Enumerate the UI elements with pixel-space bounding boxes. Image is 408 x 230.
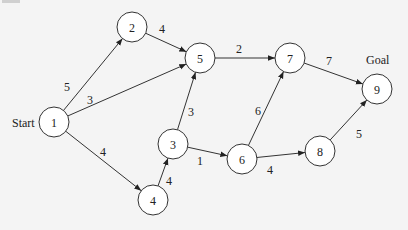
edge-3-to-6: 1 [188, 147, 228, 168]
node-label: 7 [287, 52, 293, 66]
node-label: 8 [317, 145, 323, 159]
node-label: 2 [129, 21, 135, 35]
edge-2-to-5: 4 [146, 22, 187, 52]
edge-weight: 6 [255, 104, 261, 118]
edge-5-to-7: 2 [215, 42, 275, 58]
edge-8-to-9: 5 [330, 100, 367, 141]
nodes-layer: 123456789 [39, 12, 392, 215]
node-4: 4 [138, 185, 168, 215]
arrow-icon [304, 63, 363, 84]
edge-weight: 5 [64, 80, 70, 94]
arrow-icon [68, 64, 187, 116]
arrow-icon [188, 147, 228, 156]
edge-weight: 1 [197, 154, 203, 168]
node-label: 5 [197, 52, 203, 66]
arrow-icon [257, 153, 305, 158]
node-7: 7 [275, 43, 305, 73]
edge-weight: 5 [356, 127, 362, 141]
edge-weight: 4 [100, 145, 106, 159]
node-6: 6 [227, 144, 257, 174]
goal-label: Goal [366, 53, 390, 67]
arrow-icon [64, 39, 123, 111]
node-label: 4 [150, 194, 156, 208]
edge-6-to-7: 6 [248, 72, 283, 146]
arrow-icon [248, 72, 283, 146]
node-3: 3 [158, 129, 188, 159]
node-label: 1 [51, 116, 57, 130]
node-5: 5 [185, 43, 215, 73]
node-8: 8 [305, 136, 335, 166]
arrow-icon [146, 33, 187, 52]
edge-3-to-5: 3 [177, 72, 195, 129]
edge-weight: 7 [326, 54, 332, 68]
node-2: 2 [117, 12, 147, 42]
node-label: 6 [239, 153, 245, 167]
edge-4-to-3: 4 [158, 158, 172, 188]
edge-weight: 2 [236, 42, 242, 56]
start-label: Start [12, 116, 35, 130]
edge-1-to-4: 4 [66, 131, 141, 190]
node-label: 3 [170, 138, 176, 152]
node-9: 9 [362, 74, 392, 104]
edge-weight: 3 [188, 105, 194, 119]
edge-weight: 3 [87, 93, 93, 107]
edge-1-to-2: 5 [64, 39, 123, 111]
edge-6-to-8: 4 [257, 153, 305, 177]
edge-weight: 4 [159, 22, 165, 36]
node-label: 9 [374, 83, 380, 97]
arrow-icon [177, 72, 195, 129]
edge-7-to-9: 7 [304, 54, 363, 84]
edge-weight: 4 [166, 174, 172, 188]
graph-diagram: 534443126475 123456789 Start Goal [0, 0, 408, 230]
arrow-icon [66, 131, 141, 190]
node-1: 1 [39, 107, 69, 137]
edge-1-to-5: 3 [68, 64, 187, 116]
edge-weight: 4 [267, 163, 273, 177]
